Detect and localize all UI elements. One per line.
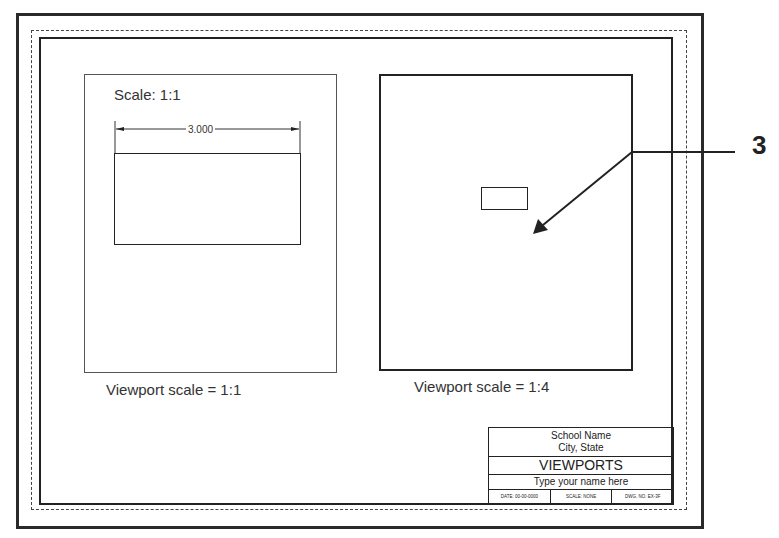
title-block-school: School Name City, State — [489, 428, 673, 457]
school-name: School Name — [489, 430, 673, 442]
callout-number: 3 — [752, 130, 766, 161]
drawing-title: VIEWPORTS — [489, 457, 673, 475]
title-block: School Name City, State VIEWPORTS Type y… — [488, 427, 674, 505]
student-name: Type your name here — [489, 475, 673, 490]
left-viewport-caption: Viewport scale = 1:1 — [106, 381, 241, 398]
dimension-value: 3.000 — [186, 124, 215, 135]
scale-field: SCALE: NONE — [551, 490, 613, 504]
title-block-footer: DATE: 00-00-0000 SCALE: NONE DWG. NO. EX… — [489, 490, 673, 504]
rectangle-quarter-scale — [481, 187, 528, 210]
school-city: City, State — [489, 442, 673, 454]
rectangle-full-scale — [114, 153, 301, 245]
viewport-right[interactable] — [379, 74, 633, 371]
date-field: DATE: 00-00-0000 — [489, 490, 551, 504]
drawing-number-field: DWG. NO. EX-3F — [612, 490, 673, 504]
right-viewport-caption: Viewport scale = 1:4 — [414, 378, 549, 395]
